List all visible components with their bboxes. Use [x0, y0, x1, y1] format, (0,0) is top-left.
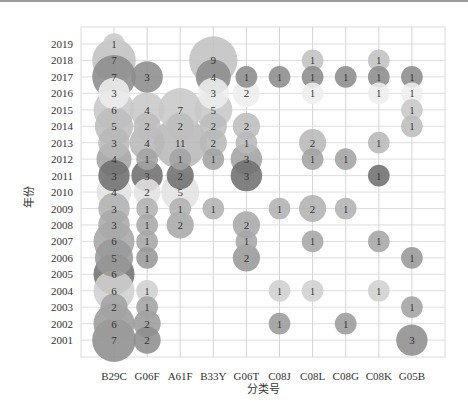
bubble-value-label: 1 [145, 154, 150, 165]
bubble-value-label: 1 [145, 286, 150, 297]
bubble-value-label: 7 [111, 334, 117, 346]
bubble-value-label: 1 [343, 154, 348, 165]
bubble-value-label: 1 [310, 286, 315, 297]
bubble-value-label: 1 [343, 72, 348, 83]
bubble-value-label: 1 [112, 39, 117, 50]
bubble-value-label: 1 [277, 72, 282, 83]
bubble-value-label: 1 [277, 204, 282, 215]
bubble-value-label: 3 [409, 334, 415, 346]
bubble-value-label: 2 [144, 120, 150, 132]
bubble-value-label: 3 [111, 137, 117, 149]
y-axis-tick-labels: 2019201820172016201520142013201220112010… [51, 38, 74, 346]
x-tick-label: B33Y [200, 370, 226, 382]
bubble-value-label: 2 [244, 87, 250, 99]
bubble-value-label: 4 [144, 137, 150, 149]
bubble-value-label: 2 [177, 170, 183, 182]
bubble-chart: 2019201820172016201520142013201220112010… [0, 0, 468, 402]
y-tick-label: 2013 [51, 137, 74, 149]
bubble-value-label: 11 [175, 137, 186, 149]
bubble-value-label: 1 [145, 204, 150, 215]
y-tick-label: 2006 [51, 252, 74, 264]
bubble-value-label: 3 [144, 170, 150, 182]
bubble-value-label: 3 [211, 87, 217, 99]
bubble-value-label: 6 [111, 285, 117, 297]
bubble-value-label: 6 [111, 318, 117, 330]
bubble-value-label: 1 [409, 105, 414, 116]
bubble-value-label: 1 [244, 236, 249, 247]
bubble-value-label: 6 [111, 235, 117, 247]
bubble-value-label: 1 [178, 204, 183, 215]
y-tick-label: 2010 [51, 186, 74, 198]
bubble-value-label: 1 [343, 204, 348, 215]
bubble-value-label: 1 [409, 72, 414, 83]
bubble-value-label: 3 [111, 87, 117, 99]
x-axis-title: 分类号 [247, 382, 280, 396]
bubble-value-label: 2 [211, 137, 217, 149]
bubble-value-label: 1 [145, 236, 150, 247]
bubble-value-label: 1 [145, 302, 150, 313]
x-axis-tick-labels: B29CG06FA61FB33YG06TC08JC08LC08GC08KG05B [101, 370, 425, 382]
x-tick-label: G06T [234, 370, 260, 382]
bubble-value-label: 1 [409, 121, 414, 132]
bubble-value-label: 3 [144, 71, 150, 83]
x-tick-label: C08J [268, 370, 291, 382]
bubble-value-label: 1 [376, 72, 381, 83]
y-axis-title: 年份 [22, 186, 36, 208]
bubble-value-label: 1 [310, 154, 315, 165]
y-tick-label: 2009 [51, 203, 74, 215]
bubble-value-label: 1 [376, 236, 381, 247]
y-tick-label: 2019 [51, 38, 74, 50]
bubble-value-label: 5 [211, 104, 217, 116]
bubble-value-label: 5 [111, 120, 117, 132]
bubble-value-label: 5 [177, 186, 183, 198]
bubble-value-label: 2 [211, 120, 217, 132]
y-tick-label: 2003 [51, 301, 74, 313]
y-tick-label: 2002 [51, 318, 73, 330]
y-tick-label: 2011 [51, 170, 73, 182]
bubble-value-label: 3 [111, 219, 117, 231]
y-tick-label: 2004 [51, 285, 74, 297]
y-tick-label: 2008 [51, 219, 74, 231]
bubble-value-label: 1 [376, 55, 381, 66]
bubble-value-label: 1 [376, 286, 381, 297]
bubble-value-label: 1 [409, 253, 414, 264]
bubble-value-label: 9 [211, 54, 217, 66]
y-tick-label: 2001 [51, 334, 73, 346]
bubble-value-label: 2 [244, 252, 250, 264]
bubble-value-label: 3 [111, 203, 117, 215]
bubble-value-label: 3 [111, 170, 117, 182]
bubble-value-label: 1 [310, 88, 315, 99]
bubble-value-label: 6 [111, 268, 117, 280]
bubble-value-label: 6 [111, 104, 117, 116]
bubble-value-label: 3 [244, 170, 250, 182]
x-tick-label: A61F [168, 370, 193, 382]
bubble-value-label: 7 [111, 54, 117, 66]
x-tick-label: G05B [399, 370, 425, 382]
y-tick-label: 2018 [51, 54, 74, 66]
bubble-value-label: 1 [277, 286, 282, 297]
bubble-value-label: 2 [244, 120, 250, 132]
bubble-value-label: 1 [178, 154, 183, 165]
bubble-value-label: 2 [177, 219, 183, 231]
bubble-value-label: 1 [244, 138, 249, 149]
bubble-value-label: 1 [376, 171, 381, 182]
bubble-value-label: 7 [111, 71, 117, 83]
y-tick-label: 2005 [51, 268, 74, 280]
bubble-value-label: 4 [211, 71, 217, 83]
bubble-value-label: 2 [310, 203, 316, 215]
x-tick-label: C08G [333, 370, 359, 382]
bubble-value-label: 2 [244, 219, 250, 231]
bubble-value-label: 1 [310, 72, 315, 83]
y-tick-label: 2017 [51, 71, 74, 83]
bubble-value-label: 4 [144, 104, 150, 116]
bubble-value-label: 2 [111, 301, 117, 313]
bubble-value-label: 7 [177, 104, 183, 116]
y-tick-label: 2015 [51, 104, 74, 116]
bubble-value-label: 1 [310, 236, 315, 247]
bubble-value-label: 2 [310, 137, 316, 149]
x-tick-label: C08K [366, 370, 392, 382]
bubble-value-label: 1 [409, 88, 414, 99]
bubble-value-label: 1 [376, 138, 381, 149]
bubble-value-label: 1 [343, 319, 348, 330]
bubble-value-label: 1 [244, 72, 249, 83]
